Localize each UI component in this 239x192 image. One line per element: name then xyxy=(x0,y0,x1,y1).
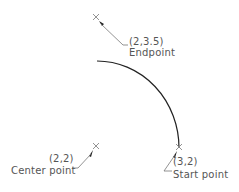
endpoint-label: Endpoint xyxy=(129,47,175,58)
center-label: Center point xyxy=(11,165,76,176)
endpoint-marker xyxy=(93,14,99,20)
endpoint-coords: (2,3.5) xyxy=(129,36,164,47)
center-coords: (2,2) xyxy=(49,153,74,164)
center-marker xyxy=(93,143,99,149)
arc-diagram: (2,3.5) Endpoint (2,2) Center point (3,2… xyxy=(0,0,239,192)
endpoint-leader xyxy=(99,21,128,45)
start-label: Start point xyxy=(173,169,228,180)
arc xyxy=(97,61,179,148)
start-coords: (3,2) xyxy=(173,156,198,167)
